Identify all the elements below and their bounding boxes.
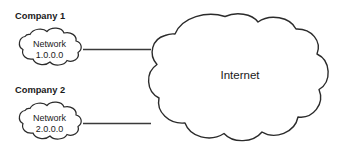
internet-label: Internet bbox=[221, 69, 261, 81]
network-diagram: Network 1.0.0.0 Company 1 Network 2.0.0.… bbox=[0, 0, 345, 151]
company-2-network-line-2: 2.0.0.0 bbox=[36, 124, 64, 134]
company-1-label: Company 1 bbox=[15, 11, 65, 21]
company-1-network-line-2: 1.0.0.0 bbox=[36, 50, 64, 60]
company-1-node[interactable]: Network 1.0.0.0 bbox=[19, 28, 81, 65]
internet-node[interactable]: Internet bbox=[149, 14, 329, 141]
company-2-node[interactable]: Network 2.0.0.0 bbox=[19, 102, 81, 139]
company-1-network-line-1: Network bbox=[33, 39, 67, 49]
company-2-network-line-1: Network bbox=[33, 113, 67, 123]
company-2-label: Company 2 bbox=[15, 85, 65, 95]
